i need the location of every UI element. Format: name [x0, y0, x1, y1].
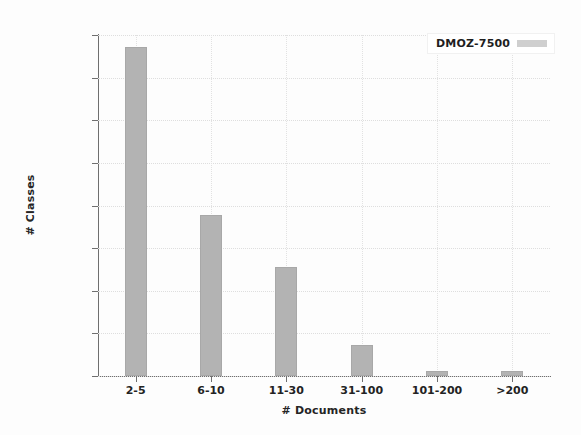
- chart-legend: DMOZ-7500: [427, 33, 555, 54]
- horizontal-gridline: [98, 248, 550, 249]
- y-tick-mark: [92, 291, 98, 292]
- horizontal-gridline: [98, 163, 550, 164]
- y-tick-mark: [92, 35, 98, 36]
- horizontal-gridline: [98, 376, 550, 377]
- y-tick-mark: [92, 206, 98, 207]
- x-tick-mark: [437, 376, 438, 382]
- horizontal-gridline: [98, 333, 550, 334]
- x-tick-label: 2-5: [96, 384, 176, 397]
- x-tick-label: >200: [472, 384, 552, 397]
- bar: [200, 215, 222, 376]
- horizontal-gridline: [98, 291, 550, 292]
- x-tick-label: 101-200: [397, 384, 477, 397]
- y-tick-mark: [92, 120, 98, 121]
- legend-item-label: DMOZ-7500: [436, 37, 510, 50]
- x-tick-label: 6-10: [171, 384, 251, 397]
- x-tick-label: 31-100: [322, 384, 402, 397]
- y-tick-mark: [92, 376, 98, 377]
- y-tick-mark: [92, 248, 98, 249]
- bar: [275, 267, 297, 376]
- y-tick-mark: [92, 78, 98, 79]
- x-tick-mark: [512, 376, 513, 382]
- bar: [125, 47, 147, 376]
- x-tick-mark: [136, 376, 137, 382]
- y-tick-mark: [92, 333, 98, 334]
- legend-color-swatch: [517, 40, 547, 47]
- horizontal-gridline: [98, 78, 550, 79]
- x-tick-mark: [211, 376, 212, 382]
- vertical-gridline: [437, 35, 438, 376]
- vertical-gridline: [512, 35, 513, 376]
- x-tick-mark: [286, 376, 287, 382]
- bar-chart: # Classes # Documents 050010001500200025…: [0, 0, 581, 435]
- x-tick-mark: [362, 376, 363, 382]
- y-tick-mark: [92, 163, 98, 164]
- bar: [351, 345, 373, 376]
- horizontal-gridline: [98, 206, 550, 207]
- horizontal-gridline: [98, 120, 550, 121]
- x-tick-label: 11-30: [246, 384, 326, 397]
- y-axis-title: # Classes: [24, 150, 37, 260]
- x-axis-title: # Documents: [98, 404, 550, 417]
- vertical-gridline: [362, 35, 363, 376]
- plot-area: [98, 35, 550, 376]
